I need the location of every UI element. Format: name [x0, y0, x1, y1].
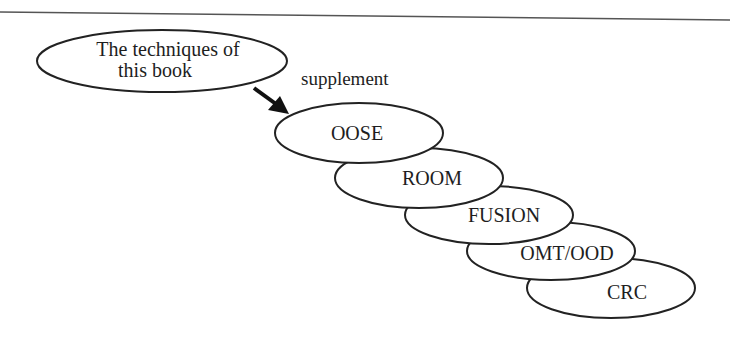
method-label: ROOM [402, 167, 462, 189]
method-node-oose: OOSE [275, 103, 443, 163]
diagram-canvas: The techniques of this book supplement C… [0, 0, 730, 338]
source-line-1: The techniques of [96, 38, 240, 61]
supplement-arrow-icon [254, 88, 289, 114]
method-label: FUSION [468, 204, 540, 226]
source-node: The techniques of this book [37, 30, 287, 92]
method-label: OOSE [331, 122, 383, 144]
source-line-2: this book [118, 59, 192, 81]
method-label: CRC [607, 281, 647, 303]
method-label: OMT/OOD [520, 242, 613, 264]
relation-label: supplement [301, 68, 389, 89]
top-rule [0, 12, 730, 20]
